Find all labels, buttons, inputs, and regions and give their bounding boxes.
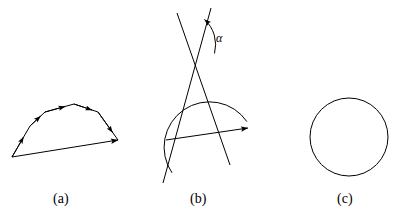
panel-b-group: [163, 8, 248, 183]
direction-arrow-1: [12, 137, 24, 157]
direction-arrow-3: [45, 107, 65, 113]
panel-b-chord-arrow: [166, 128, 248, 140]
panel-caption-c: (c): [337, 192, 353, 206]
panel-c-circle: [310, 98, 388, 176]
panel-c-group: [310, 98, 388, 176]
panel-b-tangent-line-left: [163, 8, 211, 183]
panel-caption-a: (a): [53, 192, 69, 206]
direction-arrow-5: [98, 112, 113, 132]
direction-arrow-2: [30, 116, 41, 126]
polyline-path: [12, 104, 118, 157]
direction-arrow-4: [74, 104, 92, 110]
panel-a-chord-arrow: [12, 140, 118, 157]
panel-a-group: [12, 104, 118, 157]
panel-a-polyline: [12, 104, 118, 157]
panel-caption-b: (b): [190, 192, 206, 206]
panel-b-circle-arc: [164, 102, 247, 173]
angle-alpha-label: α: [216, 32, 222, 44]
figure-svg-canvas: [0, 0, 404, 220]
figure-container: α (a) (b) (c): [0, 0, 404, 220]
